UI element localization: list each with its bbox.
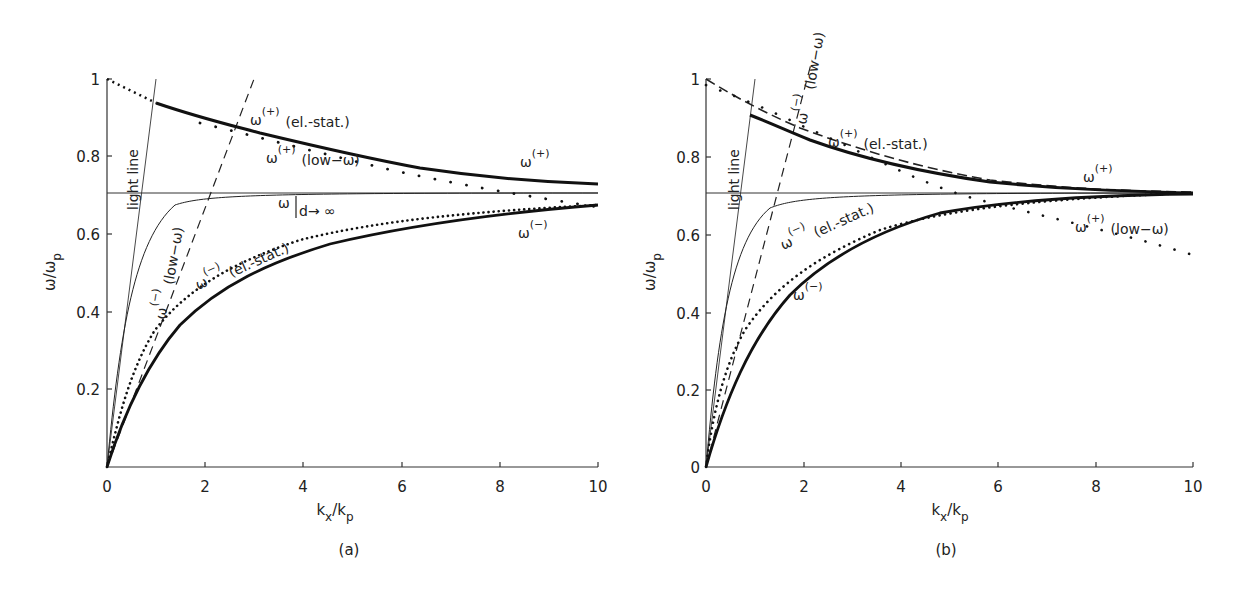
x-tick-2: 2	[799, 478, 809, 496]
light-line	[107, 79, 156, 467]
svg-text:d→ ∞: d→ ∞	[299, 203, 336, 219]
svg-text:ω: ω	[278, 195, 290, 211]
x-tick-4: 4	[298, 478, 308, 496]
y-axis-label: ω/ωp	[641, 253, 664, 291]
curves-a	[107, 79, 598, 467]
y-tick-0.6: 0.6	[76, 226, 100, 244]
omega-minus-label: ω(−)	[793, 280, 823, 303]
panel-b-axes	[706, 79, 1193, 467]
light-line-label: light line	[726, 149, 742, 210]
panel-a: 0 2 4 6 8 10 0.2 0.4 0.6 0.8 1 ω/ωp kx/k…	[41, 71, 608, 559]
x-tick-0: 0	[701, 478, 711, 496]
omega-plus-right-label: ω(+)	[1083, 162, 1113, 185]
x-axis-label: kx/kp	[931, 501, 968, 524]
x-tick-2: 2	[200, 478, 210, 496]
y-axis-label: ω/ωp	[41, 253, 64, 291]
x-tick-8: 8	[1091, 478, 1101, 496]
panel-b: 0 2 4 6 8 10 0 0.2 0.4 0.6 0.8 1 ω/ωp kx…	[641, 29, 1203, 559]
light-line-label: light line	[125, 149, 141, 210]
caption-a: (a)	[339, 541, 360, 559]
omega-plus-elstat-label: ω(+)(el.-stat.)	[828, 127, 928, 152]
x-tick-10: 10	[1183, 478, 1202, 496]
omega-minus-low-w-label: ω(−)(low−ω)	[145, 224, 186, 321]
y-tick-0.4: 0.4	[676, 305, 700, 323]
x-tick-0: 0	[102, 478, 112, 496]
y-tick-0.4: 0.4	[76, 304, 100, 322]
curves-b	[706, 60, 1193, 467]
x-tick-10: 10	[588, 478, 607, 496]
y-tick-0.8: 0.8	[676, 149, 700, 167]
omega-plus-thick	[750, 115, 1193, 193]
omega-plus-elstat-start	[107, 79, 156, 103]
y-tick-0: 0	[690, 459, 700, 477]
omega-d-inf-label: ω d→ ∞	[278, 195, 336, 219]
y-tick-1: 1	[90, 71, 100, 89]
x-tick-8: 8	[495, 478, 505, 496]
figure: 0 2 4 6 8 10 0.2 0.4 0.6 0.8 1 ω/ωp kx/k…	[0, 0, 1235, 595]
omega-plus-low-w-label: ω(+)(low−ω)	[1075, 212, 1169, 237]
x-tick-6: 6	[397, 478, 407, 496]
x-tick-4: 4	[896, 478, 906, 496]
y-tick-1: 1	[690, 71, 700, 89]
y-tick-0.6: 0.6	[676, 227, 700, 245]
panel-a-axes	[107, 79, 598, 467]
omega-plus-right-label: ω(+)	[520, 147, 550, 170]
caption-b: (b)	[935, 541, 956, 559]
omega-minus-right-label: ω(−)	[518, 218, 548, 241]
omega-minus-low-w-label: ω(−)(low−ω)	[786, 29, 827, 126]
omega-plus-elstat-label: ω(+)(el.-stat.)	[250, 105, 350, 130]
x-tick-6: 6	[993, 478, 1003, 496]
y-tick-0.8: 0.8	[76, 148, 100, 166]
y-tick-0.2: 0.2	[76, 381, 100, 399]
omega-plus-thick	[156, 103, 598, 184]
light-line	[706, 79, 755, 467]
x-axis-label: kx/kp	[316, 501, 353, 524]
y-tick-0.2: 0.2	[676, 382, 700, 400]
